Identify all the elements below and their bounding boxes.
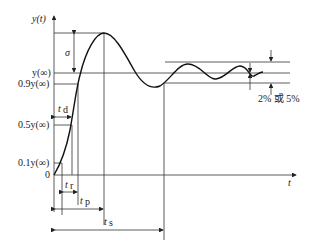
overshoot-label: σ xyxy=(65,47,71,58)
svg-text:s: s xyxy=(109,217,113,228)
svg-text:p: p xyxy=(85,196,90,207)
tolerance-label: 2% 或 5% xyxy=(258,93,300,104)
y-axis-label: y(t) xyxy=(31,13,47,25)
response-curve xyxy=(54,33,263,175)
svg-text:d: d xyxy=(63,104,68,115)
svg-text:t: t xyxy=(104,216,107,227)
svg-text:t: t xyxy=(65,179,68,190)
svg-text:t: t xyxy=(58,103,61,114)
ninety-label: 0.9y(∞) xyxy=(18,78,49,90)
svg-text:t: t xyxy=(80,195,83,206)
step-response-diagram: σ t d t r t p t s 2% 或 5% y(t) t y(∞) 0.… xyxy=(0,0,314,249)
svg-text:r: r xyxy=(70,180,74,191)
fifty-label: 0.5y(∞) xyxy=(18,119,49,131)
ten-label: 0.1y(∞) xyxy=(18,157,49,169)
zero-label: 0 xyxy=(45,169,50,180)
x-axis-label: t xyxy=(288,177,291,188)
